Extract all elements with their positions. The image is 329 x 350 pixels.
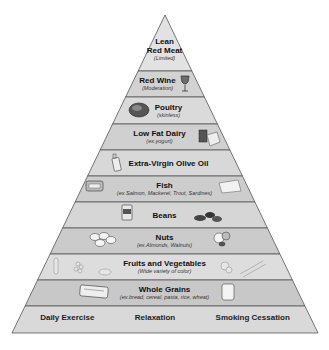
tier-poultry-label: Poultry (skinless) <box>4 103 329 119</box>
tier-title: Poultry <box>4 103 329 112</box>
tier-fish-label: Fish (ex.Salmon, Mackerel, Trout, Sardin… <box>0 181 329 197</box>
lifestyle-base-row: Daily Exercise Relaxation Smoking Cessat… <box>20 313 310 322</box>
tier-subtitle: (Moderation) <box>0 85 322 92</box>
tier-title: Beans <box>0 211 329 220</box>
tier-title: Fish <box>0 181 329 190</box>
base-item-smoking-cessation: Smoking Cessation <box>216 313 290 322</box>
tier-title: Red Meat <box>0 46 329 55</box>
tier-subtitle: (ex.bread, cereal, pasta, rice, wheat) <box>0 294 329 301</box>
tier-olive-oil-label: Extra-Virgin Olive Oil <box>4 159 329 168</box>
tier-low-fat-dairy-label: Low Fat Dairy (ex.yogurt) <box>0 129 324 145</box>
base-item-relaxation: Relaxation <box>135 313 175 322</box>
tier-fruits-vegetables-label: Fruits and Vegetables (Wide variety of c… <box>0 259 329 275</box>
tier-subtitle: (skinless) <box>4 112 329 119</box>
tier-nuts-label: Nuts (ex.Almonds, Walnuts) <box>0 233 329 249</box>
tier-beans-label: Beans <box>0 211 329 220</box>
tier-subtitle: (ex.yogurt) <box>0 138 324 145</box>
tier-red-wine-label: Red Wine (Moderation) <box>0 76 322 92</box>
tier-title: Whole Grains <box>0 285 329 294</box>
tier-subtitle: (ex.Salmon, Mackerel, Trout, Sardines) <box>0 190 329 197</box>
base-item-daily-exercise: Daily Exercise <box>40 313 94 322</box>
tier-title: Low Fat Dairy <box>0 129 324 138</box>
tier-lean-red-meat-label: Lean Red Meat (Limited) <box>0 37 329 62</box>
tier-title: Extra-Virgin Olive Oil <box>4 159 329 168</box>
tier-subtitle: (Wide variety of color) <box>0 268 329 275</box>
tier-subtitle: (Limited) <box>0 55 329 62</box>
tier-title: Red Wine <box>0 76 322 85</box>
tier-title: Lean <box>0 37 329 46</box>
tier-subtitle: (ex.Almonds, Walnuts) <box>0 242 329 249</box>
tier-title: Nuts <box>0 233 329 242</box>
tier-whole-grains-label: Whole Grains (ex.bread, cereal, pasta, r… <box>0 285 329 301</box>
tier-title: Fruits and Vegetables <box>0 259 329 268</box>
